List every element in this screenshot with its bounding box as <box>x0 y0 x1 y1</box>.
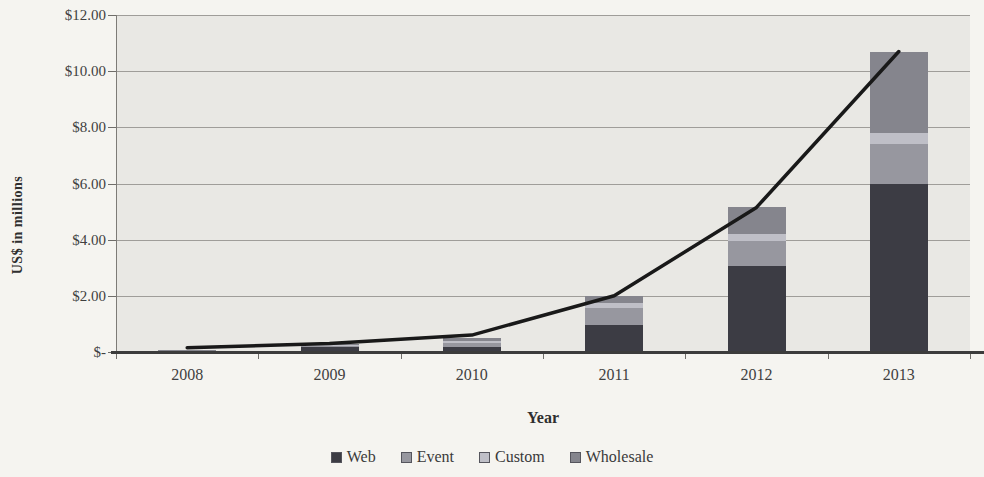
bar-segment-wholesale-2012 <box>728 207 786 234</box>
bar-segment-web-2013 <box>870 184 928 353</box>
y-axis-tick-mark <box>108 296 116 297</box>
bar-segment-wholesale-2011 <box>585 296 643 304</box>
gridline-12 <box>116 15 970 16</box>
plot-area <box>116 15 970 352</box>
x-axis-tick-label-2009: 2009 <box>285 366 375 384</box>
y-axis-tick-mark <box>108 240 116 241</box>
legend-label-event: Event <box>417 448 454 466</box>
bar-segment-web-2011 <box>585 325 643 352</box>
x-axis-tick-mark <box>685 354 686 359</box>
bar-segment-event-2013 <box>870 144 928 183</box>
y-axis-tick-label: $4.00 <box>2 231 106 250</box>
bar-segment-custom-2009 <box>301 345 359 346</box>
y-axis-tick-label: $2.00 <box>2 287 106 306</box>
y-axis-tick-label: $12.00 <box>2 6 106 25</box>
x-axis-tick-mark <box>543 354 544 359</box>
legend: WebEventCustomWholesale <box>0 448 984 466</box>
bar-segment-event-2011 <box>585 308 643 325</box>
total-revenue-polyline <box>187 52 899 348</box>
x-axis-line <box>111 351 984 354</box>
bar-stack-2012 <box>728 15 786 352</box>
legend-label-wholesale: Wholesale <box>586 448 654 466</box>
bar-stack-2011 <box>585 15 643 352</box>
bar-segment-event-2009 <box>301 346 359 347</box>
legend-item-web: Web <box>331 448 376 466</box>
gridline-6 <box>116 184 970 185</box>
bar-segment-web-2012 <box>728 266 786 352</box>
legend-label-web: Web <box>347 448 376 466</box>
bar-stack-2013 <box>870 15 928 352</box>
bar-segment-custom-2010 <box>443 341 501 342</box>
bar-segment-custom-2013 <box>870 133 928 144</box>
legend-swatch-custom <box>479 452 490 463</box>
x-axis-tick-mark <box>258 354 259 359</box>
bar-stack-2009 <box>301 15 359 352</box>
bar-segment-wholesale-2009 <box>301 344 359 345</box>
x-axis-tick-mark <box>970 354 971 359</box>
gridline-2 <box>116 296 970 297</box>
legend-item-wholesale: Wholesale <box>570 448 654 466</box>
y-axis-tick-label: $6.00 <box>2 175 106 194</box>
bar-segment-wholesale-2013 <box>870 52 928 133</box>
legend-label-custom: Custom <box>495 448 545 466</box>
y-axis-tick-mark <box>108 184 116 185</box>
legend-swatch-web <box>331 452 342 463</box>
y-axis-tick-mark <box>108 15 116 16</box>
x-axis-tick-label-2011: 2011 <box>569 366 659 384</box>
x-axis-tick-label-2013: 2013 <box>854 366 944 384</box>
gridline-4 <box>116 240 970 241</box>
x-axis-tick-label-2010: 2010 <box>427 366 517 384</box>
x-axis-tick-label-2008: 2008 <box>142 366 232 384</box>
y-axis-tick-mark <box>108 71 116 72</box>
x-axis-title: Year <box>116 409 970 427</box>
y-axis-tick-label: $- <box>2 343 106 362</box>
bar-stack-2010 <box>443 15 501 352</box>
x-axis-tick-mark <box>116 354 117 359</box>
bar-segment-event-2012 <box>728 241 786 266</box>
y-axis-tick-label: $8.00 <box>2 118 106 137</box>
y-axis-tick-mark <box>108 127 116 128</box>
x-axis-tick-mark <box>828 354 829 359</box>
bar-segment-event-2010 <box>443 343 501 347</box>
bar-segment-custom-2011 <box>585 303 643 308</box>
gridline-8 <box>116 127 970 128</box>
y-axis-tick-label: $10.00 <box>2 62 106 81</box>
gridline-10 <box>116 71 970 72</box>
legend-item-event: Event <box>401 448 454 466</box>
bar-segment-wholesale-2010 <box>443 338 501 341</box>
legend-swatch-event <box>401 452 412 463</box>
y-axis-line <box>116 15 117 352</box>
legend-swatch-wholesale <box>570 452 581 463</box>
legend-item-custom: Custom <box>479 448 545 466</box>
bar-segment-custom-2012 <box>728 234 786 241</box>
x-axis-tick-label-2012: 2012 <box>712 366 802 384</box>
x-axis-tick-mark <box>401 354 402 359</box>
chart-root: US$ in millions $12.00$10.00$8.00$6.00$4… <box>0 0 984 477</box>
bar-stack-2008 <box>158 15 216 352</box>
